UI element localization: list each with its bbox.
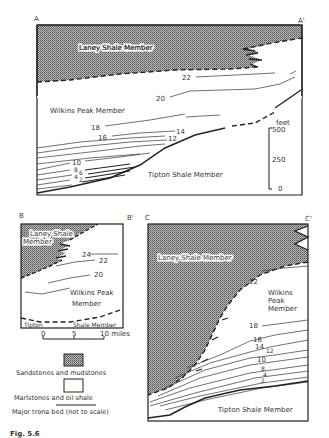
svg-text:Laney Shale Member: Laney Shale Member: [79, 44, 153, 52]
legend-label-trona: Major trona bed (not to scale): [12, 408, 109, 416]
bed-c-14: 14: [255, 343, 264, 351]
h-scale-10: 10 miles: [100, 330, 130, 338]
bed-b-24: 24: [82, 251, 91, 259]
panel-c-corner-left: C: [145, 214, 150, 222]
panel-c-label-tipton: Tipton Shale Member: [217, 406, 293, 414]
bed-label-20: 20: [156, 95, 165, 103]
panel-b-label-wilkins-1: Wilkins Peak: [70, 289, 115, 297]
h-scale-0: 0: [41, 330, 45, 338]
legend-label-marlstones: Marlstones and oil shale: [14, 394, 93, 402]
panel-b: B B' Laney Shale Member 24 22 20 Wilkins…: [19, 212, 134, 329]
panel-a-label-tipton: Tipton Shale Member: [147, 171, 223, 179]
legend: Sandstones and mudstones Marlstones and …: [12, 354, 109, 416]
bed-b-22: 22: [99, 257, 108, 265]
panel-c-label-laney: Laney Shale Member: [158, 254, 232, 262]
bed-c-22: 22: [249, 278, 258, 286]
figure-caption: Fig. 5.6: [10, 430, 40, 438]
panel-b-corner-left: B: [19, 212, 24, 220]
bed-c-18: 18: [249, 322, 258, 330]
vertical-scale-0: 0: [278, 185, 282, 193]
panel-b-label-tipton-left: Tipton: [23, 321, 43, 329]
bed-label-16: 16: [98, 134, 107, 142]
bed-c-2: 2: [261, 377, 265, 384]
panel-b-label-laney-1: Laney Shale: [30, 230, 73, 238]
figure-canvas: A A' Laney Shale Member Laney Shale Memb…: [0, 0, 329, 438]
panel-c-label-wilkins-3: Member: [268, 305, 297, 313]
panel-c-label-wilkins-1: Wilkins: [268, 289, 293, 297]
bed-label-6: 6: [79, 169, 83, 176]
bed-label-8: 8: [74, 166, 78, 173]
legend-empty-swatch: [64, 379, 83, 392]
bed-label-12: 12: [168, 135, 177, 143]
panel-b-label-laney-2: Member: [23, 238, 52, 246]
bed-label-22: 22: [182, 74, 191, 82]
panel-a-label-wilkins: Wilkins Peak Member: [50, 107, 125, 115]
bed-c-12: 12: [266, 347, 274, 354]
panel-a: A A' Laney Shale Member Laney Shale Memb…: [34, 15, 305, 195]
panel-a-corner-left: A: [34, 15, 39, 23]
bed-label-14: 14: [176, 128, 185, 136]
panel-b-label-tipton-right: Shale Member: [73, 321, 117, 328]
bed-c-10: 10: [257, 356, 266, 364]
bed-b-20: 20: [94, 271, 103, 279]
panel-c-label-wilkins-2: Peak: [268, 297, 286, 305]
bed-label-4: 4: [74, 173, 78, 180]
legend-label-sandstones: Sandstones and mudstones: [16, 369, 107, 377]
vertical-scale-500: 500: [272, 126, 285, 134]
panel-b-corner-right: B': [127, 214, 134, 222]
h-scale-5: 5: [72, 330, 76, 338]
panel-b-label-wilkins-2: Member: [72, 300, 101, 308]
bed-label-2: 2: [79, 176, 83, 183]
vertical-scale: feet 500 250 0: [269, 119, 290, 193]
vertical-scale-250: 250: [272, 156, 285, 164]
panel-c: C C' Laney Shale Member 22 Wilkins Peak …: [145, 214, 312, 421]
horizontal-scale: 0 5 10 miles: [41, 330, 130, 339]
bed-label-18: 18: [91, 124, 100, 132]
panel-a-corner-right: A': [298, 17, 305, 25]
panel-c-corner-right: C': [305, 215, 312, 223]
legend-stipple-swatch: [64, 354, 83, 366]
